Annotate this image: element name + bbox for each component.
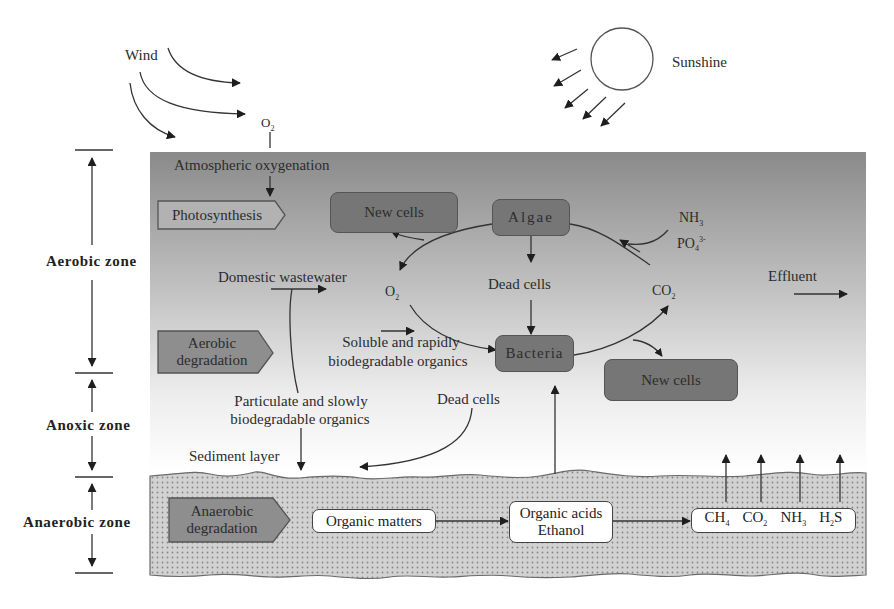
photosynthesis-label: Photosynthesis (158, 201, 276, 229)
anoxic-dead-cells-label: Dead cells (437, 391, 500, 408)
anaerobic-degradation-line2: degradation (187, 520, 258, 537)
anaerobic-degradation-line1: Anaerobic (191, 503, 253, 520)
aerobic-zone-label: Aerobic zone (46, 253, 137, 270)
gas-h2s: H2S (819, 509, 842, 532)
new-cells-top-box: New cells (330, 192, 458, 233)
o2-atmosphere-label: O2 (261, 114, 274, 137)
nh3-label: NH3 (679, 209, 703, 232)
aerobic-degradation-line1: Aerobic (188, 335, 236, 352)
anaerobic-degradation-label: Anaerobic degradation (169, 498, 275, 542)
aerobic-degradation-line2: degradation (177, 352, 248, 369)
anoxic-zone-label: Anoxic zone (46, 417, 131, 434)
gases-box: CH4 CO2 NH3 H2S (691, 508, 856, 533)
new-cells-bottom-box: New cells (604, 359, 738, 401)
po4-label: PO43- (677, 231, 706, 257)
particulate-organics-line1: Particulate and slowly (206, 393, 396, 410)
co2-label: CO2 (652, 282, 675, 305)
sunshine-label: Sunshine (672, 54, 727, 71)
new-cells-top-label: New cells (364, 204, 424, 221)
sediment-layer-label: Sediment layer (189, 448, 279, 465)
organic-acids-box: Organic acids Ethanol (509, 501, 613, 543)
organic-matters-box: Organic matters (312, 509, 436, 533)
bacteria-box: Bacteria (495, 335, 574, 372)
effluent-label: Effluent (768, 268, 817, 285)
organic-acids-line2: Ethanol (538, 522, 585, 539)
soluble-organics-line2: biodegradable organics (298, 353, 498, 370)
organic-acids-line1: Organic acids (520, 505, 603, 522)
atmospheric-oxygenation-label: Atmospheric oxygenation (174, 157, 329, 174)
o2-label: O2 (385, 283, 399, 306)
new-cells-bottom-label: New cells (641, 372, 701, 389)
particulate-organics-line2: biodegradable organics (200, 411, 400, 428)
algae-box: Algae (492, 199, 570, 236)
aerobic-degradation-label: Aerobic degradation (158, 331, 266, 373)
anaerobic-zone-label: Anaerobic zone (23, 514, 131, 531)
wind-label: Wind (125, 47, 158, 64)
soluble-organics-line1: Soluble and rapidly (313, 334, 489, 351)
organic-matters-label: Organic matters (326, 513, 422, 530)
gas-nh3: NH3 (780, 509, 806, 532)
dead-cells-label: Dead cells (488, 276, 551, 293)
gas-ch4: CH4 (705, 509, 730, 532)
diagram-content: Wind Sunshine O2 Aerobic zone Anoxic zon… (0, 0, 894, 609)
algae-label: Algae (508, 209, 554, 226)
gas-co2: CO2 (743, 509, 768, 532)
bacteria-label: Bacteria (506, 345, 564, 362)
domestic-wastewater-label: Domestic wastewater (218, 269, 347, 286)
